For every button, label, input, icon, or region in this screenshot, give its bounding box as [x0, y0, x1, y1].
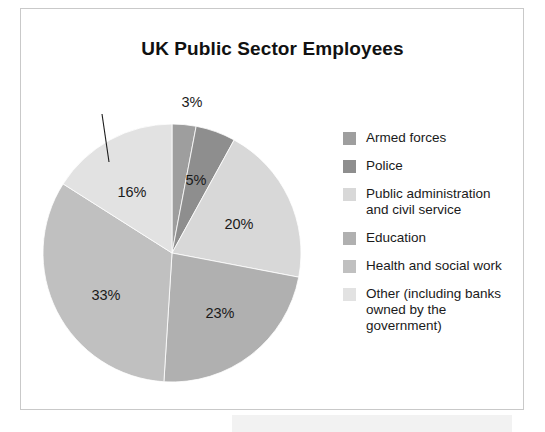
chart-title: UK Public Sector Employees [0, 38, 545, 60]
pie-slice-value-label: 3% [182, 94, 203, 110]
legend-swatch-icon [343, 260, 356, 273]
pie-slice-value-label: 16% [117, 184, 146, 200]
legend-item[interactable]: Public administration and civil service [343, 186, 518, 218]
legend-swatch-icon [343, 232, 356, 245]
legend-item-label: Public administration and civil service [366, 186, 491, 218]
legend-item-label: Armed forces [366, 130, 446, 146]
legend-item[interactable]: Health and social work [343, 258, 518, 274]
chart-page: UK Public Sector Employees 3%5%20%23%33%… [0, 0, 545, 432]
legend-swatch-icon [343, 188, 356, 201]
pie-slice-value-label: 23% [205, 305, 234, 321]
legend-item[interactable]: Armed forces [343, 130, 518, 146]
legend-item-label: Health and social work [366, 258, 502, 274]
chart-legend: Armed forcesPolicePublic administration … [343, 130, 518, 346]
pie-slice-value-label: 20% [224, 216, 253, 232]
legend-item[interactable]: Education [343, 230, 518, 246]
legend-item[interactable]: Police [343, 158, 518, 174]
legend-swatch-icon [343, 288, 356, 301]
legend-item-label: Education [366, 230, 426, 246]
pie-slices [43, 124, 301, 382]
pie-chart [43, 124, 301, 382]
legend-item[interactable]: Other (including banks owned by the gove… [343, 286, 518, 334]
page-shadow [232, 415, 512, 432]
legend-item-label: Other (including banks owned by the gove… [366, 286, 501, 334]
legend-swatch-icon [343, 160, 356, 173]
legend-item-label: Police [366, 158, 403, 174]
pie-svg [43, 124, 301, 382]
pie-slice-value-label: 33% [91, 287, 120, 303]
legend-swatch-icon [343, 132, 356, 145]
pie-slice-value-label: 5% [186, 172, 207, 188]
